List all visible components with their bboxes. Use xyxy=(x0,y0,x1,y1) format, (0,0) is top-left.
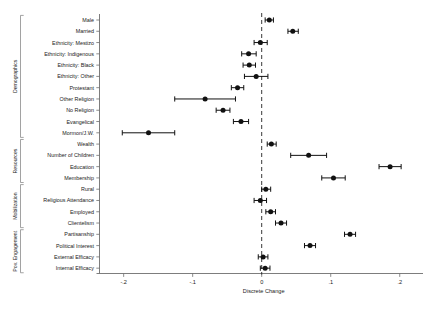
category-label: No Religion xyxy=(66,107,94,113)
x-tick-label: -.2 xyxy=(120,279,127,285)
x-tick-label: -.1 xyxy=(189,279,196,285)
estimate-point xyxy=(263,266,268,271)
category-label: Rural xyxy=(81,186,94,192)
estimate-point xyxy=(238,119,243,124)
coefficient-plot: DemographicsResourcesMobilizationPov. En… xyxy=(0,0,426,309)
category-label: Partisanship xyxy=(64,231,94,237)
estimate-point xyxy=(258,198,263,203)
estimate-point xyxy=(269,142,274,147)
estimate-point xyxy=(146,130,151,135)
estimate-point xyxy=(306,153,311,158)
category-label: Protestant xyxy=(69,85,94,91)
category-label: Male xyxy=(82,17,94,23)
group-label: Resources xyxy=(12,148,18,173)
estimate-point xyxy=(246,51,251,56)
estimate-point xyxy=(267,18,272,23)
category-label: Employed xyxy=(70,209,94,215)
x-tick-label: .1 xyxy=(328,279,333,285)
category-label: Number of Children xyxy=(47,152,94,158)
estimate-point xyxy=(261,254,266,259)
category-label: Religious Attendance xyxy=(43,197,94,203)
estimate-point xyxy=(331,175,336,180)
estimate-point xyxy=(247,63,252,68)
x-tick-label: .2 xyxy=(397,279,402,285)
group-label-layer: DemographicsResourcesMobilizationPov. En… xyxy=(12,59,18,271)
group-label: Pov. Engagement xyxy=(12,230,18,271)
estimate-point xyxy=(279,221,284,226)
category-label: Ethnicity: Other xyxy=(57,73,94,79)
category-label: Ethnicity: Mestizo xyxy=(52,40,94,46)
category-label: Other Religion xyxy=(60,96,94,102)
category-label: Evangelical xyxy=(66,119,94,125)
x-tick-label: 0 xyxy=(260,279,263,285)
category-label: Mormon/J.W. xyxy=(62,130,94,136)
category-label: External Efficacy xyxy=(54,254,94,260)
estimate-point xyxy=(388,164,393,169)
estimate-point xyxy=(308,243,313,248)
category-label: Internal Efficacy xyxy=(56,265,95,271)
chart-root: DemographicsResourcesMobilizationPov. En… xyxy=(0,0,426,309)
category-label: Education xyxy=(70,164,94,170)
category-label: Ethnicity: Indigenous xyxy=(44,51,94,57)
x-axis-title: Discrete Change xyxy=(243,288,285,294)
estimate-point xyxy=(254,74,259,79)
estimate-point xyxy=(263,187,268,192)
category-label: Wealth xyxy=(77,141,94,147)
category-label: Ethnicity: Black xyxy=(57,62,94,68)
estimate-point xyxy=(268,209,273,214)
estimate-point xyxy=(203,96,208,101)
estimate-point xyxy=(258,40,263,45)
category-label: Clientelism xyxy=(68,220,95,226)
category-label: Political Interest xyxy=(56,243,95,249)
estimate-point xyxy=(290,29,295,34)
estimate-point xyxy=(348,232,353,237)
category-label: Married xyxy=(76,28,94,34)
category-label: Membership xyxy=(64,175,94,181)
group-label: Mobilization xyxy=(12,192,18,220)
estimate-point xyxy=(221,108,226,113)
group-label: Demographics xyxy=(12,59,18,93)
estimate-point xyxy=(235,85,240,90)
